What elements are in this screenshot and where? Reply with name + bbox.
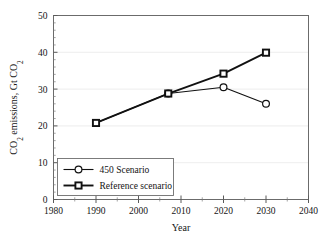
data-point-2-2 xyxy=(165,90,171,96)
legend-label-1: 450 Scenario xyxy=(100,165,150,175)
data-point-2-1 xyxy=(93,120,99,126)
xtick-label: 2030 xyxy=(257,206,276,216)
xtick-label: 2040 xyxy=(299,206,318,216)
legend-item-2[interactable]: Reference scenario xyxy=(64,181,173,191)
series-line-2 xyxy=(96,53,266,123)
xtick-label: 1990 xyxy=(87,206,106,216)
data-series xyxy=(93,50,270,127)
xtick-label: 1980 xyxy=(44,206,63,216)
x-axis-title: Year xyxy=(172,222,191,233)
series-line-1 xyxy=(96,87,266,123)
data-point-2-3 xyxy=(220,71,226,77)
xtick-label: 2020 xyxy=(214,206,233,216)
legend-marker-circle xyxy=(75,166,82,173)
y-axis-title: CO2 emissions, Gt CO2 xyxy=(8,60,25,155)
legend-marker-square xyxy=(75,182,81,188)
ytick-label: 10 xyxy=(38,158,48,168)
legend-label-2: Reference scenario xyxy=(100,181,173,191)
data-point-1-3 xyxy=(220,84,227,91)
ytick-label: 0 xyxy=(43,195,48,205)
chart-legend[interactable]: 450 ScenarioReference scenario xyxy=(58,159,174,196)
ytick-label: 40 xyxy=(38,48,48,58)
ytick-label: 50 xyxy=(38,11,48,21)
data-point-1-4 xyxy=(263,100,270,107)
data-point-2-4 xyxy=(263,50,269,56)
ytick-label: 20 xyxy=(38,121,48,131)
chart-figure: 010203040501980199020002010202020302040 … xyxy=(0,0,332,241)
xtick-label: 2010 xyxy=(172,206,191,216)
emissions-line-chart: 010203040501980199020002010202020302040 … xyxy=(0,0,332,241)
xtick-label: 2000 xyxy=(129,206,148,216)
ytick-label: 30 xyxy=(38,85,48,95)
